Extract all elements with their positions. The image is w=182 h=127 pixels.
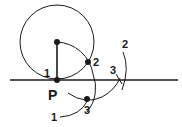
- label-p: P: [48, 87, 57, 103]
- arc-2: [122, 52, 126, 90]
- arc-3-tick: [116, 74, 122, 84]
- label-2: 2: [93, 56, 99, 68]
- arc-3: [68, 78, 120, 100]
- label-1-arc: 1: [51, 111, 57, 123]
- label-3-arc: 3: [110, 64, 116, 76]
- label-2-arc: 2: [122, 38, 128, 50]
- label-1: 1: [44, 67, 50, 79]
- point-2: [85, 59, 91, 65]
- point-p: [54, 77, 60, 83]
- label-3-point: 3: [84, 104, 90, 116]
- point-3: [84, 96, 90, 102]
- arc-from-p: [57, 42, 96, 112]
- center-point: [54, 39, 60, 45]
- construction-diagram: 1 P 2 3 3 2 1: [0, 0, 182, 127]
